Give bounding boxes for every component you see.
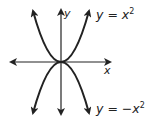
label-y-equals-x-squared: y = x2: [96, 7, 134, 22]
x-axis-label: x: [104, 64, 111, 77]
label-y-equals-neg-x-squared: y = −x2: [96, 101, 145, 116]
y-axis-label: y: [64, 7, 71, 20]
